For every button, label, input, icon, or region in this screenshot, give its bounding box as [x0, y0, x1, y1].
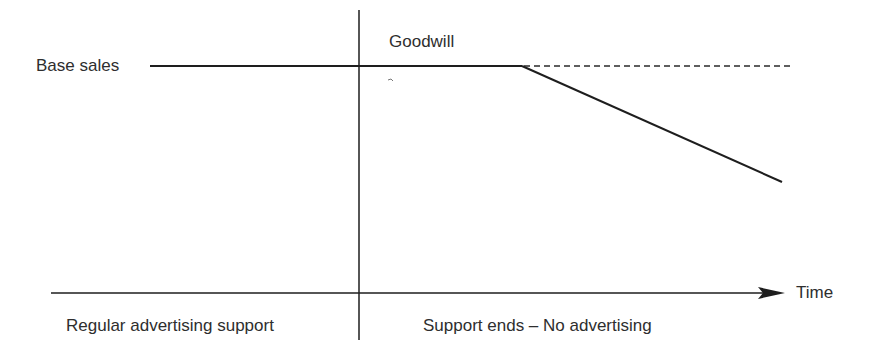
period-after-label: Support ends – No advertising	[423, 316, 652, 336]
base-sales-label: Base sales	[36, 56, 119, 76]
scan-speck	[388, 79, 393, 81]
time-axis-label: Time	[796, 283, 833, 303]
diagram-canvas	[0, 0, 884, 361]
goodwill-diagram: Base sales Goodwill Time Regular adverti…	[0, 0, 884, 361]
period-before-label: Regular advertising support	[66, 316, 274, 336]
goodwill-label: Goodwill	[389, 32, 454, 52]
sales-decline-line	[522, 66, 782, 182]
